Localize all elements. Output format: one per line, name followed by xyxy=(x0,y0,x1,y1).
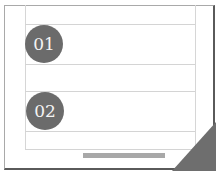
rule-line xyxy=(25,24,195,25)
rule-line xyxy=(25,64,195,65)
rule-line xyxy=(25,131,195,132)
left-margin-line xyxy=(25,5,26,149)
number-badge-01: 01 xyxy=(25,25,63,63)
footer-bar xyxy=(83,153,165,158)
number-badge-02: 02 xyxy=(26,92,64,130)
rule-line xyxy=(25,149,195,150)
badge-number: 02 xyxy=(34,101,56,121)
badge-number: 01 xyxy=(33,34,55,54)
corner-triangle-icon xyxy=(172,122,216,171)
